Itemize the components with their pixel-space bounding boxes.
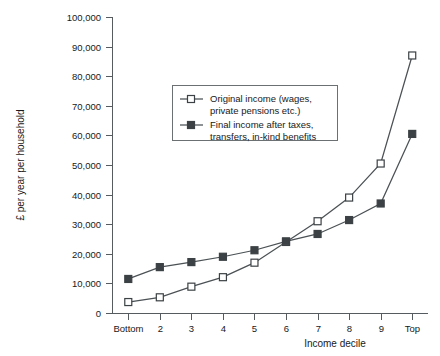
data-point-marker: [125, 275, 132, 282]
data-point-marker: [251, 259, 258, 266]
chart-legend: Original income (wages, private pensions…: [173, 86, 338, 143]
y-tick-label: 100,000: [67, 12, 101, 23]
data-point-marker: [377, 200, 384, 207]
y-tick-label: 20,000: [72, 249, 101, 260]
data-point-marker: [219, 253, 226, 260]
data-point-marker: [156, 264, 163, 271]
x-tick-label: 8: [347, 323, 352, 334]
data-point-marker: [314, 230, 321, 237]
data-point-marker: [346, 217, 353, 224]
filled-square-icon: [188, 122, 195, 129]
x-tick-label: 4: [221, 323, 226, 334]
x-tick-label: 2: [158, 323, 163, 334]
x-tick-label: 9: [379, 323, 384, 334]
open-square-icon: [188, 96, 195, 103]
x-tick-label: 6: [284, 323, 289, 334]
y-tick-label: 80,000: [72, 71, 101, 82]
series-line-final-income: [128, 134, 412, 279]
y-tick-label: 40,000: [72, 190, 101, 201]
data-point-marker: [251, 247, 258, 254]
data-point-marker: [314, 218, 321, 225]
y-tick-label: 70,000: [72, 101, 101, 112]
data-point-marker: [188, 259, 195, 266]
data-point-marker: [409, 130, 416, 137]
data-point-marker: [346, 194, 353, 201]
data-point-marker: [283, 238, 290, 245]
data-point-marker: [125, 299, 132, 306]
legend-label-final-line1: Final income after taxes,: [210, 119, 314, 130]
x-axis-ticks: Bottom23456789Top: [113, 314, 420, 335]
data-point-marker: [156, 294, 163, 301]
x-tick-label: 7: [316, 323, 321, 334]
legend-label-final-line2: transfers, in-kind benefits: [210, 131, 316, 142]
line-chart-plot: 010,00020,00030,00040,00050,00060,00070,…: [0, 0, 440, 356]
y-tick-label: 50,000: [72, 160, 101, 171]
x-axis-title: Income decile: [304, 338, 366, 349]
y-tick-label: 0: [96, 308, 101, 319]
legend-label-original-line1: Original income (wages,: [210, 93, 312, 104]
data-point-marker: [377, 160, 384, 167]
y-tick-label: 30,000: [72, 219, 101, 230]
y-tick-label: 60,000: [72, 130, 101, 141]
y-axis-ticks: 010,00020,00030,00040,00050,00060,00070,…: [67, 12, 113, 319]
data-point-marker: [409, 52, 416, 59]
x-tick-label: Top: [405, 323, 420, 334]
y-tick-label: 10,000: [72, 278, 101, 289]
chart-figure: 010,00020,00030,00040,00050,00060,00070,…: [0, 0, 440, 356]
x-tick-label: 3: [189, 323, 194, 334]
data-point-marker: [219, 274, 226, 281]
y-axis-title: £ per year per household: [15, 109, 26, 220]
x-tick-label: 5: [252, 323, 257, 334]
legend-label-original-line2: private pensions etc.): [210, 105, 300, 116]
y-tick-label: 90,000: [72, 42, 101, 53]
data-point-marker: [188, 283, 195, 290]
x-tick-label: Bottom: [113, 323, 143, 334]
